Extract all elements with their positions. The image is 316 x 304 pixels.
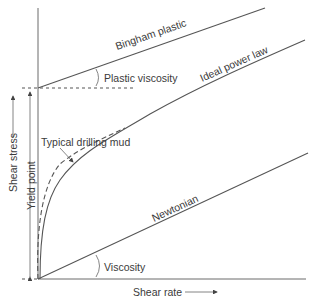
typical-drilling-mud-curve — [38, 128, 125, 279]
plastic-viscosity-label: Plastic viscosity — [104, 72, 178, 84]
viscosity-label: Viscosity — [104, 261, 146, 273]
viscosity-angle-arc — [96, 255, 100, 277]
rheology-diagram: Bingham plastic Plastic viscosity Ideal … — [0, 0, 316, 304]
ideal-power-law-label: Ideal power law — [198, 43, 270, 84]
newtonian-label: Newtonian — [150, 192, 200, 224]
shear-stress-label: Shear stress — [7, 133, 19, 192]
drilling-mud-pointer-arrow — [60, 148, 73, 162]
typical-drilling-mud-label: Typical drilling mud — [41, 136, 130, 148]
plastic-viscosity-angle-arc — [96, 69, 99, 86]
shear-rate-label: Shear rate — [133, 286, 182, 298]
yield-point-label: Yield point — [25, 161, 37, 210]
newtonian-line — [38, 153, 308, 279]
bingham-plastic-label: Bingham plastic — [114, 16, 188, 51]
